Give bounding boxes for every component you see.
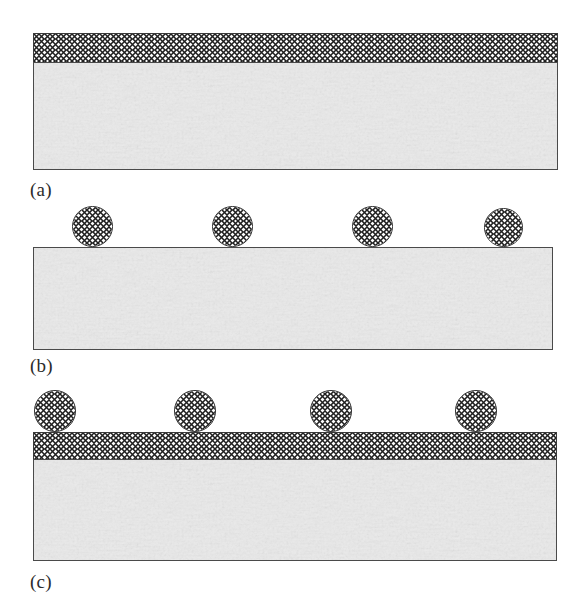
figure-canvas: (a) (b) (c) bbox=[0, 0, 585, 613]
substrate-grain-texture bbox=[33, 247, 553, 350]
substrate-grain-texture bbox=[33, 459, 557, 561]
crosshatch-fill bbox=[455, 390, 497, 432]
particle-circle bbox=[212, 206, 253, 247]
particle-circle bbox=[310, 390, 352, 432]
particle-circle bbox=[174, 390, 216, 432]
particle-circle bbox=[484, 208, 523, 247]
panel-c-coating-layer bbox=[33, 432, 557, 460]
crosshatch-fill bbox=[352, 206, 393, 247]
crosshatch-fill bbox=[72, 206, 113, 247]
panel-c-substrate bbox=[33, 459, 557, 561]
substrate-grain-texture bbox=[33, 62, 558, 170]
crosshatch-fill bbox=[484, 208, 523, 247]
crosshatch-fill bbox=[33, 432, 557, 460]
panel-a-coating-layer bbox=[33, 33, 558, 63]
crosshatch-fill bbox=[212, 206, 253, 247]
crosshatch-fill bbox=[33, 33, 558, 63]
particle-circle bbox=[72, 206, 113, 247]
panel-a-caption: (a) bbox=[30, 180, 52, 199]
panel-c-caption: (c) bbox=[30, 572, 52, 591]
particle-circle bbox=[352, 206, 393, 247]
crosshatch-fill bbox=[34, 390, 76, 432]
crosshatch-fill bbox=[174, 390, 216, 432]
particle-circle bbox=[34, 390, 76, 432]
panel-b-caption: (b) bbox=[30, 356, 53, 375]
panel-b-substrate bbox=[33, 247, 553, 350]
particle-circle bbox=[455, 390, 497, 432]
panel-a-substrate bbox=[33, 62, 558, 170]
crosshatch-fill bbox=[310, 390, 352, 432]
